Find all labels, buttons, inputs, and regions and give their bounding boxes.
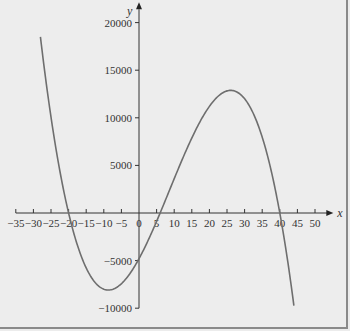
x-tick-label: −20 — [60, 217, 78, 229]
y-tick-label: −10000 — [98, 302, 132, 314]
cubic-curve — [40, 37, 293, 306]
x-tick-label: 45 — [292, 217, 304, 229]
x-tick-label: 50 — [310, 217, 322, 229]
chart-frame: −35−30−25−20−15−10−505101520253035404550… — [0, 0, 348, 329]
x-tick-label: 0 — [136, 217, 142, 229]
y-tick-label: 5000 — [110, 159, 133, 171]
x-ticks: −35−30−25−20−15−10−505101520253035404550 — [7, 209, 321, 229]
x-tick-label: 35 — [257, 217, 269, 229]
y-axis-label: y — [126, 4, 133, 18]
y-tick-label: −5000 — [104, 255, 133, 267]
x-tick-label: 15 — [186, 217, 198, 229]
cubic-function-chart: −35−30−25−20−15−10−505101520253035404550… — [0, 0, 350, 331]
x-tick-label: −25 — [42, 217, 60, 229]
x-tick-label: 20 — [204, 217, 216, 229]
x-tick-label: 25 — [222, 217, 234, 229]
x-tick-label: −35 — [7, 217, 25, 229]
x-axis-label: x — [336, 206, 343, 220]
x-tick-label: 30 — [239, 217, 251, 229]
x-tick-label: 10 — [169, 217, 181, 229]
x-tick-label: −15 — [78, 217, 96, 229]
y-tick-label: 20000 — [105, 17, 133, 29]
y-axis-arrow-icon — [136, 2, 142, 9]
x-tick-label: −5 — [116, 217, 128, 229]
x-tick-label: −10 — [95, 217, 113, 229]
y-tick-label: 15000 — [105, 64, 133, 76]
y-tick-label: 10000 — [105, 112, 133, 124]
x-tick-label: −30 — [25, 217, 43, 229]
axes — [16, 2, 334, 308]
x-axis-arrow-icon — [326, 210, 333, 216]
